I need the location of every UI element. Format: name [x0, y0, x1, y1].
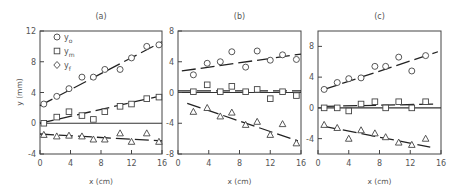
square-marker [217, 89, 223, 95]
triangle-marker [382, 134, 389, 140]
square-marker [243, 89, 249, 95]
square-marker [91, 117, 97, 123]
circle-marker [204, 60, 210, 66]
triangle-marker [345, 135, 352, 141]
triangle-marker [229, 109, 236, 115]
x-tick-label: 12 [405, 159, 415, 168]
square-marker [346, 108, 352, 114]
triangle-marker [372, 130, 379, 136]
y-tick-label: -4 [166, 119, 174, 128]
y-tick-label: 12 [26, 27, 36, 36]
square-marker [334, 105, 340, 111]
circle-marker [144, 43, 150, 49]
y-tick-label: 8 [309, 42, 314, 51]
square-marker [79, 113, 85, 119]
circle-marker [129, 55, 135, 61]
square-marker [267, 96, 273, 102]
square-marker [229, 84, 235, 90]
y-tick-label: 8 [169, 27, 174, 36]
circle-marker [321, 86, 327, 92]
series-y-f [40, 130, 162, 144]
y-tick-label: -4 [28, 150, 36, 159]
square-marker [102, 109, 108, 115]
x-tick-label: 4 [68, 159, 73, 168]
square-marker [396, 99, 402, 105]
panel-title: (b) [234, 12, 245, 21]
circle-marker [267, 57, 273, 63]
circle-marker [190, 72, 196, 78]
legend: yoymyf [54, 33, 75, 72]
square-marker [191, 89, 197, 95]
panel-c: (c)-40480481216x (cm) [306, 12, 446, 186]
series-y-m [321, 99, 438, 114]
circle-marker [79, 74, 85, 80]
triangle-marker [422, 135, 429, 141]
triangle-marker [293, 140, 300, 146]
legend-diamond-icon [54, 62, 60, 69]
x-tick-label: 16 [436, 159, 446, 168]
chart-canvas: y (mm) (a)-4048120481216x (cm)yoymyf(b)-… [0, 0, 454, 195]
square-marker [117, 104, 123, 110]
triangle-marker [334, 124, 341, 130]
triangle-marker [102, 136, 109, 142]
legend-label: yo [64, 33, 73, 44]
circle-marker [66, 86, 72, 92]
circle-marker [334, 80, 340, 86]
y-tick-label: 8 [31, 58, 36, 67]
square-marker [144, 96, 150, 102]
legend-label: ym [64, 47, 75, 58]
triangle-marker [408, 141, 415, 147]
circle-marker [423, 53, 429, 59]
triangle-marker [321, 121, 328, 127]
circle-marker [280, 52, 286, 58]
triangle-marker [254, 118, 261, 124]
x-tick-label: 16 [157, 159, 167, 168]
y-tick-label: -8 [166, 150, 174, 159]
square-marker [54, 114, 60, 120]
square-marker [372, 99, 378, 105]
x-tick-label: 12 [126, 159, 136, 168]
legend-square-icon [54, 48, 60, 54]
x-tick-label: 4 [346, 159, 351, 168]
series-y-f [321, 121, 430, 147]
triangle-marker [279, 121, 286, 127]
x-tick-label: 12 [265, 159, 275, 168]
square-marker [280, 89, 286, 95]
square-marker [254, 87, 260, 93]
circle-marker [117, 66, 123, 72]
x-axis-label: x (cm) [227, 177, 251, 186]
square-marker [423, 99, 429, 105]
series-y-f [187, 103, 299, 146]
x-tick-label: 8 [98, 159, 103, 168]
circle-marker [229, 49, 235, 55]
triangle-marker [53, 133, 60, 139]
triangle-marker [395, 139, 402, 145]
y-tick-label: 0 [169, 89, 174, 98]
x-tick-label: 0 [315, 159, 320, 168]
circle-marker [358, 75, 364, 81]
panel-title: (c) [374, 12, 385, 21]
fit-line [324, 104, 438, 106]
square-marker [204, 82, 210, 88]
x-axis-label: x (cm) [367, 177, 391, 186]
x-tick-label: 0 [175, 159, 180, 168]
circle-marker [156, 42, 162, 48]
panel-a: (a)-4048120481216x (cm)yoymyf [26, 12, 167, 186]
y-tick-label: 0 [31, 119, 36, 128]
circle-marker [372, 63, 378, 69]
y-tick-label: 4 [169, 58, 174, 67]
x-axis-label: x (cm) [89, 177, 113, 186]
fit-line [324, 52, 438, 90]
circle-marker [409, 68, 415, 74]
series-y-m [178, 82, 301, 101]
triangle-marker [143, 130, 150, 136]
triangle-marker [190, 108, 197, 114]
x-tick-label: 8 [377, 159, 382, 168]
triangle-marker [358, 127, 365, 133]
x-tick-label: 4 [206, 159, 211, 168]
circle-marker [54, 93, 60, 99]
circle-marker [254, 48, 260, 54]
square-marker [409, 105, 415, 111]
circle-marker [293, 56, 299, 62]
circle-marker [41, 101, 47, 107]
